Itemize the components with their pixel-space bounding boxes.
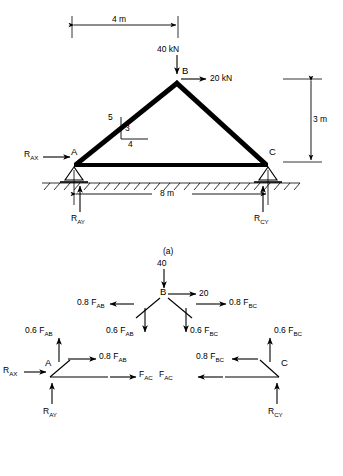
label-a-joint: A <box>45 358 51 368</box>
label-dim-bottom: 8 m <box>160 189 174 198</box>
label-c-force-x: 0.8 FBC <box>196 352 224 363</box>
label-a-force-ac: FAC <box>139 370 153 381</box>
label-a-force-y: 0.6 FAB <box>25 326 53 337</box>
label-c-joint: C <box>281 358 288 368</box>
label-c-force-ac: FAC <box>159 370 173 381</box>
label-dim-right: 3 m <box>313 115 327 124</box>
label-joint-b: B <box>182 66 188 76</box>
label-reaction-ay: RAY <box>71 214 85 225</box>
part-a-diagram <box>42 16 322 212</box>
joint-c-fbd <box>198 338 279 404</box>
joint-a-fbd <box>24 338 136 404</box>
label-a-force-x: 0.8 FAB <box>99 352 127 363</box>
truss-figure <box>0 0 343 476</box>
label-b-load-40: 40 <box>157 259 166 268</box>
label-b-force-right-y: 0.6 FBC <box>190 326 218 337</box>
label-slope-horizontal: 4 <box>128 140 133 149</box>
label-b-force-right-x: 0.8 FBC <box>229 298 257 309</box>
truss-members <box>74 80 268 167</box>
label-dim-top: 4 m <box>112 15 126 24</box>
label-slope-vertical: 3 <box>125 124 130 133</box>
part-b-diagram <box>24 269 279 404</box>
label-b-force-left-y: 0.6 FAB <box>106 326 134 337</box>
label-joint-c: C <box>269 147 276 157</box>
label-reaction-ax: RAX <box>24 150 38 161</box>
label-b-load-20: 20 <box>199 289 208 298</box>
caption-part-a: (a) <box>163 246 173 256</box>
label-reaction-cy: RCY <box>254 214 269 225</box>
label-slope-hypotenuse: 5 <box>108 113 113 122</box>
label-load-20kn: 20 kN <box>210 74 232 83</box>
joint-b-fbd <box>110 269 226 332</box>
label-joint-a: A <box>71 147 77 157</box>
label-a-reaction-y: RAY <box>43 407 57 418</box>
label-c-force-y: 0.6 FBC <box>274 326 302 337</box>
label-load-40kn: 40 kN <box>157 45 179 54</box>
label-a-reaction-x: RAX <box>3 366 17 377</box>
label-b-joint: B <box>160 287 166 297</box>
label-b-force-left-x: 0.8 FAB <box>77 298 105 309</box>
label-c-reaction-y: RCY <box>268 407 283 418</box>
